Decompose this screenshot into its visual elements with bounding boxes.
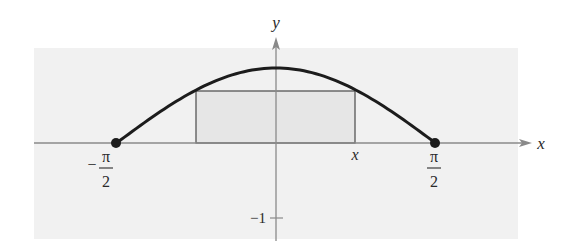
- cosine-rectangle-figure: y x − π 2 π 2 x −1: [0, 0, 568, 249]
- y-axis-label: y: [270, 13, 280, 32]
- pos-half-pi-denominator: 2: [430, 173, 438, 190]
- neg-half-pi-denominator: 2: [102, 173, 110, 190]
- neg-half-pi-sign: −: [87, 156, 96, 173]
- endpoint-pos-half-pi: [430, 138, 440, 148]
- x-axis-label: x: [536, 134, 545, 153]
- endpoint-neg-half-pi: [111, 138, 121, 148]
- neg-half-pi-numerator: π: [102, 148, 110, 165]
- rect-corner-x-label: x: [350, 146, 358, 163]
- pos-half-pi-numerator: π: [430, 148, 438, 165]
- y-tick-neg1-label: −1: [250, 210, 266, 226]
